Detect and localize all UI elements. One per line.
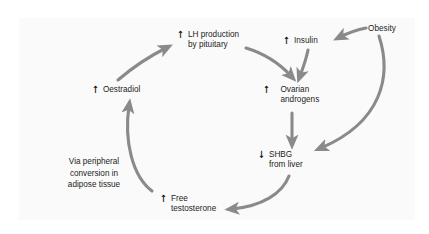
- diagram-canvas: ↑ LH production by pituitary ↑ Insulin O…: [0, 0, 429, 234]
- node-obesity: Obesity: [368, 24, 396, 34]
- node-shbg: ↓ SHBG from liver: [258, 150, 303, 171]
- up-arrow-icon: ↑: [177, 30, 184, 40]
- node-ovarian-androgens: ↑ Ovarian androgens: [263, 85, 319, 106]
- node-lh-production-label: LH production by pituitary: [188, 30, 239, 51]
- node-obesity-label: Obesity: [368, 24, 396, 34]
- up-arrow-icon: ↑: [283, 36, 290, 46]
- node-free-testosterone: ↑ Free testosterone: [160, 194, 216, 215]
- node-insulin-label: Insulin: [294, 36, 318, 46]
- node-ovarian-androgens-label: Ovarian androgens: [280, 85, 319, 106]
- annotation-peripheral-conversion: Via peripheral conversion in adipose tis…: [48, 156, 140, 191]
- node-insulin: ↑ Insulin: [283, 36, 318, 46]
- node-free-testosterone-label: Free testosterone: [171, 194, 216, 215]
- up-arrow-icon: ↑: [263, 85, 270, 95]
- up-arrow-icon: ↑: [160, 194, 167, 204]
- node-oestradiol: ↑ Oestradiol: [92, 85, 140, 95]
- node-shbg-label: SHBG from liver: [269, 150, 303, 171]
- node-oestradiol-label: Oestradiol: [103, 85, 141, 95]
- down-arrow-icon: ↓: [258, 150, 265, 160]
- up-arrow-icon: ↑: [92, 85, 99, 95]
- node-lh-production: ↑ LH production by pituitary: [177, 30, 239, 51]
